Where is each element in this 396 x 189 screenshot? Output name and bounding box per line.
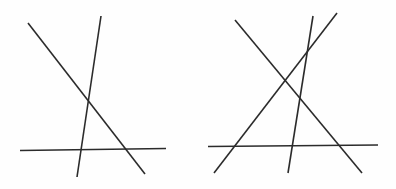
line-figure-svg [0,0,396,189]
canvas-background [0,0,396,189]
figure-canvas [0,0,396,189]
